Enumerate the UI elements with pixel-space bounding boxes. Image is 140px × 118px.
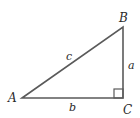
vertex-label-c: C [123,103,132,117]
triangle-shape [22,27,123,98]
vertex-label-b: B [118,11,128,25]
right-angle-marker [114,89,123,98]
side-label-b: b [69,101,76,114]
side-label-c: c [66,50,72,63]
vertex-label-a: A [7,91,17,105]
right-triangle-diagram: A B C c a b [0,0,140,118]
side-label-a: a [128,59,135,72]
